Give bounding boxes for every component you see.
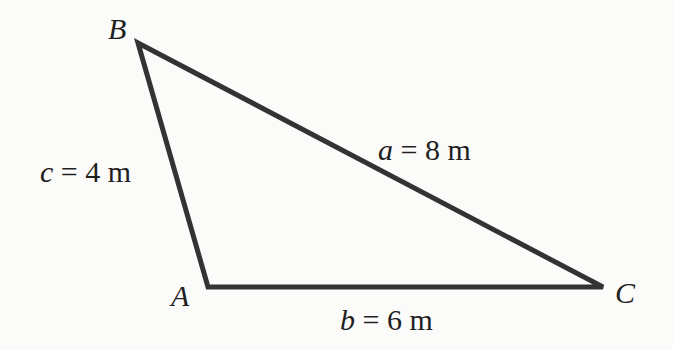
side-c-value: 4 m (85, 155, 131, 188)
triangle-abc (138, 43, 603, 287)
side-b-equals: = (355, 303, 387, 336)
vertex-label-a: A (171, 281, 189, 311)
side-a-variable: a (378, 133, 393, 166)
vertex-label-b: B (108, 14, 126, 44)
side-a-equals: = (393, 133, 425, 166)
side-c-variable: c (40, 155, 53, 188)
side-label-c: c = 4 m (40, 157, 131, 187)
vertex-label-c: C (615, 278, 635, 308)
side-label-a: a = 8 m (378, 135, 471, 165)
side-label-b: b = 6 m (340, 305, 433, 335)
side-c-equals: = (53, 155, 85, 188)
side-b-value: 6 m (387, 303, 433, 336)
side-a-value: 8 m (425, 133, 471, 166)
side-b-variable: b (340, 303, 355, 336)
